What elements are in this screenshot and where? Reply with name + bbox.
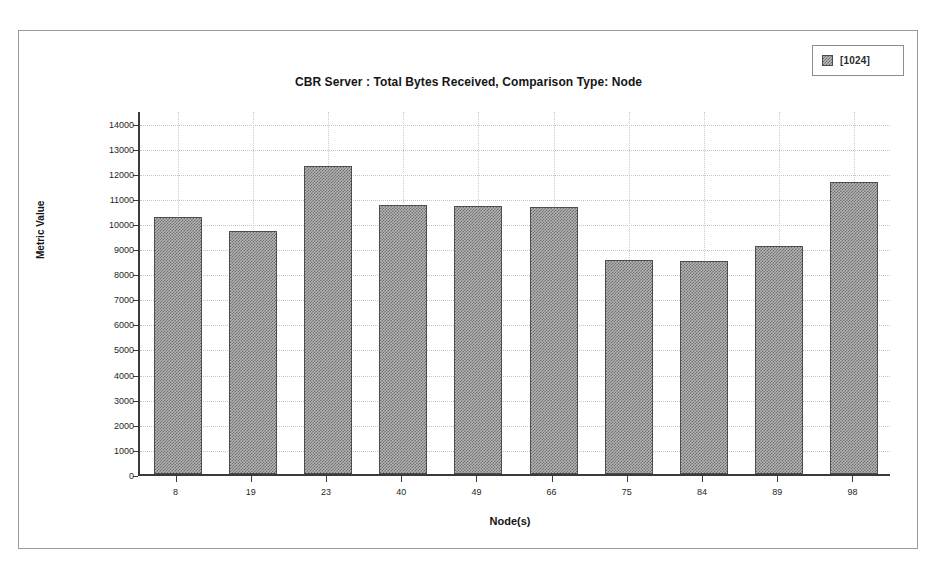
y-tick-label: 5000: [88, 345, 134, 355]
x-tick-mark: [401, 476, 402, 482]
x-tick-label: 75: [602, 487, 652, 497]
bar-98[interactable]: [830, 182, 878, 474]
y-tick-label: 7000: [88, 295, 134, 305]
x-tick-label: 84: [677, 487, 727, 497]
bar-40[interactable]: [379, 205, 427, 474]
legend-entry-label: [1024]: [840, 55, 870, 66]
y-tick-label: 3000: [88, 396, 134, 406]
legend-swatch-icon: [822, 55, 833, 66]
x-tick-mark: [552, 476, 553, 482]
x-tick-mark: [627, 476, 628, 482]
x-tick-label: 23: [301, 487, 351, 497]
x-axis-tick-marks: [138, 476, 890, 484]
y-tick-label: 12000: [88, 170, 134, 180]
chart-title: CBR Server : Total Bytes Received, Compa…: [0, 75, 937, 89]
x-tick-label: 19: [226, 487, 276, 497]
y-axis-tick-labels: 0100020003000400050006000700080009000100…: [86, 112, 134, 476]
y-tick-label: 14000: [88, 120, 134, 130]
y-tick-label: 1000: [88, 446, 134, 456]
x-axis-tick-labels: 8192340496675848998: [138, 487, 890, 501]
y-tick-label: 2000: [88, 421, 134, 431]
y-tick-label: 6000: [88, 320, 134, 330]
x-tick-mark: [702, 476, 703, 482]
x-tick-mark: [251, 476, 252, 482]
x-tick-mark: [326, 476, 327, 482]
y-tick-label: 9000: [88, 245, 134, 255]
bar-66[interactable]: [530, 207, 578, 474]
x-tick-mark: [852, 476, 853, 482]
y-tick-label: 4000: [88, 371, 134, 381]
bar-49[interactable]: [454, 206, 502, 474]
y-tick-label: 0: [88, 471, 134, 481]
x-tick-label: 40: [376, 487, 426, 497]
bar-8[interactable]: [154, 217, 202, 474]
bar-series: [140, 112, 890, 474]
x-tick-label: 66: [527, 487, 577, 497]
bar-89[interactable]: [755, 246, 803, 474]
bar-84[interactable]: [680, 261, 728, 474]
y-axis-title: Metric Value: [35, 159, 49, 259]
y-tick-label: 11000: [88, 195, 134, 205]
y-tick-label: 8000: [88, 270, 134, 280]
y-tick-label: 13000: [88, 145, 134, 155]
x-axis-title: Node(s): [130, 515, 890, 527]
x-tick-label: 8: [151, 487, 201, 497]
bar-23[interactable]: [304, 166, 352, 474]
x-tick-label: 49: [451, 487, 501, 497]
x-tick-mark: [777, 476, 778, 482]
x-tick-mark: [476, 476, 477, 482]
y-tick-label: 10000: [88, 220, 134, 230]
x-tick-label: 98: [827, 487, 877, 497]
x-tick-mark: [176, 476, 177, 482]
bar-19[interactable]: [229, 231, 277, 474]
bar-75[interactable]: [605, 260, 653, 474]
chart-window: [1024] CBR Server : Total Bytes Received…: [0, 0, 937, 568]
x-tick-label: 89: [752, 487, 802, 497]
chart-legend[interactable]: [1024]: [812, 45, 904, 76]
plot-area: [138, 112, 890, 476]
